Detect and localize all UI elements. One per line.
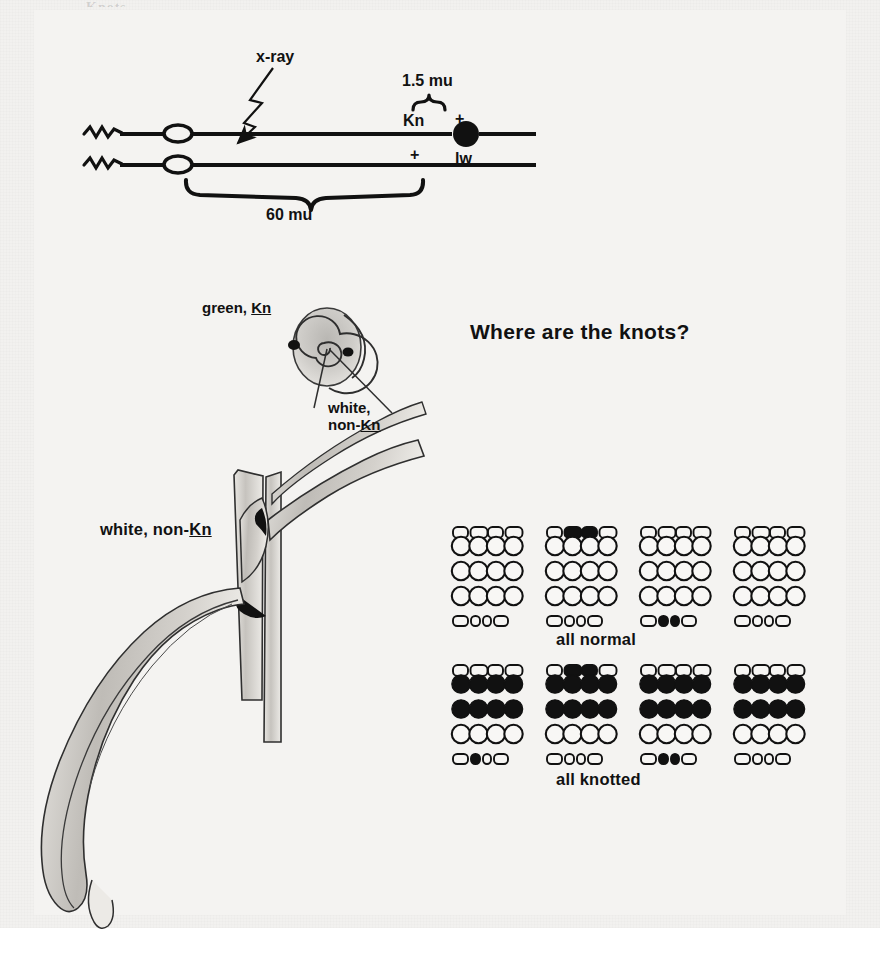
kernel-black <box>452 675 470 693</box>
kernel-white <box>504 537 522 555</box>
figure-root: Knots <box>0 0 880 974</box>
kernel-white <box>786 537 804 555</box>
caption-all-knotted: all knotted <box>556 770 641 788</box>
kernel-white <box>769 587 787 605</box>
kernel-cap-white <box>641 616 656 626</box>
kernel-cap-white <box>682 616 696 626</box>
kernel-white <box>546 725 564 743</box>
ear-panels-layer <box>0 0 880 974</box>
kernel-cap-white <box>776 754 790 764</box>
kernel-white <box>546 562 564 580</box>
kernel-white <box>769 725 787 743</box>
kernel-white <box>734 562 752 580</box>
kernel-cap-white <box>577 754 585 764</box>
kernel-black <box>504 700 522 718</box>
kernel-cap-black <box>671 754 679 764</box>
kernel-white <box>786 562 804 580</box>
kernel-white <box>640 725 658 743</box>
ear-panel <box>546 527 617 626</box>
kernel-white <box>563 587 581 605</box>
ear-panel <box>452 527 523 626</box>
kernel-white <box>751 725 769 743</box>
kernel-black <box>786 675 804 693</box>
kernel-black <box>675 700 693 718</box>
kernel-white <box>692 725 710 743</box>
kernel-cap-white <box>483 616 491 626</box>
kernel-cap-white <box>565 616 574 626</box>
kernel-white <box>692 587 710 605</box>
kernel-white <box>469 587 487 605</box>
kernel-white <box>734 587 752 605</box>
kernel-cap-white <box>483 754 491 764</box>
kernel-white <box>640 537 658 555</box>
kernel-white <box>452 587 470 605</box>
kernel-cap-white <box>471 616 480 626</box>
kernel-cap-black <box>659 616 668 626</box>
kernel-white <box>581 725 599 743</box>
ear-panel <box>452 665 523 764</box>
ear-panel <box>640 665 711 764</box>
kernel-white <box>692 562 710 580</box>
kernel-white <box>504 587 522 605</box>
kernel-cap-white <box>735 754 750 764</box>
kernel-white <box>734 537 752 555</box>
kernel-white <box>786 587 804 605</box>
kernel-black <box>581 700 599 718</box>
kernel-white <box>657 725 675 743</box>
kernel-black <box>452 700 470 718</box>
kernel-white <box>469 562 487 580</box>
kernel-white <box>487 537 505 555</box>
kernel-black <box>640 675 658 693</box>
kernel-white <box>598 725 616 743</box>
kernel-white <box>546 587 564 605</box>
kernel-cap-white <box>776 616 790 626</box>
kernel-white <box>751 587 769 605</box>
kernel-white <box>469 725 487 743</box>
kernel-white <box>657 587 675 605</box>
kernel-black <box>598 675 616 693</box>
kernel-cap-black <box>471 754 480 764</box>
kernel-cap-white <box>753 754 762 764</box>
kernel-cap-white <box>765 754 773 764</box>
kernel-cap-white <box>565 754 574 764</box>
kernel-black <box>581 675 599 693</box>
kernel-cap-white <box>765 616 773 626</box>
kernel-black <box>563 675 581 693</box>
kernel-black <box>769 675 787 693</box>
kernel-white <box>675 562 693 580</box>
kernel-cap-white <box>753 616 762 626</box>
kernel-cap-white <box>735 616 750 626</box>
kernel-cap-white <box>641 754 656 764</box>
kernel-black <box>504 675 522 693</box>
kernel-white <box>751 562 769 580</box>
kernel-cap-white <box>588 754 602 764</box>
kernel-cap-white <box>494 616 508 626</box>
kernel-cap-white <box>547 754 562 764</box>
kernel-black <box>786 700 804 718</box>
kernel-black <box>692 700 710 718</box>
kernel-white <box>487 725 505 743</box>
kernel-black <box>487 700 505 718</box>
kernel-white <box>563 562 581 580</box>
kernel-white <box>598 537 616 555</box>
kernel-black <box>692 675 710 693</box>
kernel-white <box>452 537 470 555</box>
kernel-white <box>692 537 710 555</box>
kernel-white <box>657 537 675 555</box>
kernel-cap-white <box>453 616 468 626</box>
kernel-black <box>546 700 564 718</box>
kernel-black <box>487 675 505 693</box>
kernel-black <box>751 675 769 693</box>
kernel-black <box>751 700 769 718</box>
kernel-cap-white <box>453 754 468 764</box>
kernel-white <box>581 562 599 580</box>
kernel-black <box>657 700 675 718</box>
kernel-white <box>786 725 804 743</box>
kernel-white <box>734 725 752 743</box>
kernel-white <box>581 587 599 605</box>
kernel-white <box>751 537 769 555</box>
kernel-black <box>546 675 564 693</box>
kernel-cap-black <box>671 616 679 626</box>
kernel-white <box>469 537 487 555</box>
kernel-white <box>452 725 470 743</box>
